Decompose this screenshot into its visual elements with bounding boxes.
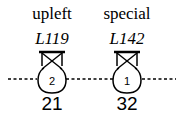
node-value-special: 32 bbox=[97, 93, 157, 115]
node-badge: 2 bbox=[49, 75, 55, 87]
node-value-upleft: 21 bbox=[22, 93, 82, 115]
node-name-upleft: upleft bbox=[12, 4, 92, 24]
node-name-special: special bbox=[87, 4, 167, 24]
node-code-special: L142 bbox=[87, 29, 167, 49]
node-code-upleft: L119 bbox=[12, 29, 92, 49]
node-symbol-upleft: 2 bbox=[38, 52, 66, 93]
node-badge: 1 bbox=[124, 75, 130, 87]
node-symbol-special: 1 bbox=[113, 52, 141, 93]
